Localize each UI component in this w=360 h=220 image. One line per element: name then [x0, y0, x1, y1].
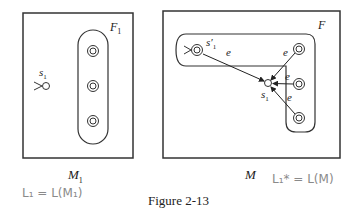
handwritten-note-right: L₁* = L(M): [272, 172, 334, 186]
label-f1: F1: [110, 20, 121, 36]
new-start-state-s1-prime: [184, 45, 203, 56]
final-state: [88, 46, 99, 57]
handwritten-note-left: L₁ = L(M₁): [22, 186, 82, 200]
edge-label-e: e: [283, 46, 288, 58]
figure-caption: Figure 2-13: [148, 193, 209, 209]
start-state-s1: [34, 82, 50, 90]
accept-set-f: [176, 34, 315, 132]
e-transition: [203, 54, 264, 81]
final-state: [294, 79, 305, 90]
label-f: F: [318, 18, 325, 33]
label-s1-prime: s′1: [206, 36, 216, 51]
machine-m-box: [163, 11, 340, 158]
label-s1: s1: [39, 66, 47, 81]
machine-m: [163, 11, 340, 158]
final-state: [294, 44, 305, 55]
edge-label-e: e: [226, 46, 231, 58]
edge-label-e: e: [285, 70, 290, 82]
label-m1: M1: [68, 167, 83, 185]
final-state: [294, 113, 305, 124]
label-s1-old: s1: [261, 88, 269, 103]
old-start-state-s1: [265, 80, 272, 87]
final-state: [88, 116, 99, 127]
final-state: [88, 81, 99, 92]
edge-label-e: e: [287, 91, 292, 103]
e-transition: [273, 84, 293, 85]
label-m: M: [245, 167, 256, 183]
